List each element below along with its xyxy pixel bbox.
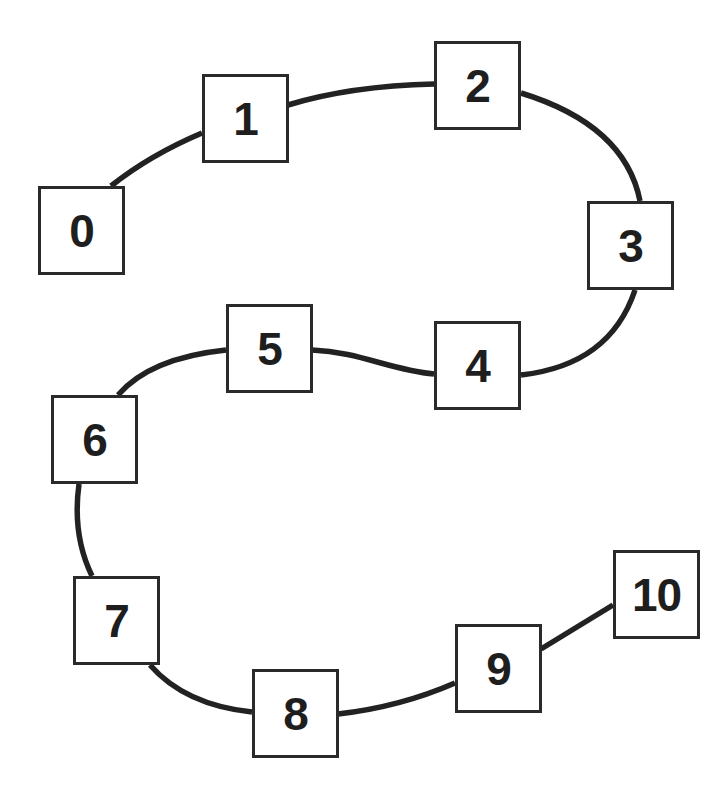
edge-9-10 bbox=[541, 605, 613, 649]
node-label: 9 bbox=[486, 646, 511, 692]
edge-4-5 bbox=[312, 350, 434, 374]
node-8: 8 bbox=[252, 669, 339, 758]
node-1: 1 bbox=[202, 74, 289, 163]
node-label: 3 bbox=[618, 223, 643, 269]
node-9: 9 bbox=[455, 624, 542, 713]
node-10: 10 bbox=[613, 550, 700, 639]
node-4: 4 bbox=[434, 321, 521, 410]
node-3: 3 bbox=[587, 201, 674, 290]
node-label: 6 bbox=[82, 417, 107, 463]
node-label: 7 bbox=[104, 598, 129, 644]
node-6: 6 bbox=[51, 395, 138, 484]
node-label: 4 bbox=[465, 343, 490, 389]
node-label: 1 bbox=[233, 96, 258, 142]
edge-8-9 bbox=[338, 683, 455, 714]
node-5: 5 bbox=[226, 304, 313, 393]
node-label: 2 bbox=[465, 63, 490, 109]
node-0: 0 bbox=[38, 186, 125, 275]
edge-7-8 bbox=[150, 665, 252, 712]
edge-3-4 bbox=[521, 290, 635, 375]
node-2: 2 bbox=[434, 41, 521, 130]
node-label: 10 bbox=[632, 572, 681, 618]
edge-2-3 bbox=[521, 93, 640, 201]
node-label: 5 bbox=[257, 326, 282, 372]
edge-0-1 bbox=[111, 133, 202, 186]
node-label: 8 bbox=[283, 691, 308, 737]
node-label: 0 bbox=[69, 208, 94, 254]
edge-6-7 bbox=[77, 484, 92, 576]
edge-1-2 bbox=[288, 84, 434, 105]
path-diagram: 0 1 2 3 4 5 6 7 8 9 10 bbox=[0, 0, 728, 800]
edge-5-6 bbox=[118, 350, 226, 395]
node-7: 7 bbox=[73, 576, 160, 665]
